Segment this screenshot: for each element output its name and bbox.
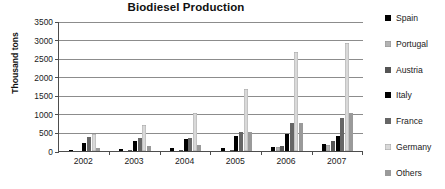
bar-spain-2003 (119, 149, 123, 151)
bar-germany-2007 (345, 43, 349, 151)
y-axis-label: 3500 (34, 17, 53, 27)
legend-label: France (396, 116, 423, 126)
bar-france-2004 (188, 138, 192, 151)
bar-italy-2003 (133, 141, 137, 151)
legend-swatch-icon (385, 92, 391, 98)
y-axis-label: 1500 (34, 91, 53, 101)
bar-france-2002 (87, 137, 91, 151)
legend-swatch-icon (385, 118, 391, 124)
legend-label: Portugal (396, 39, 428, 49)
x-axis-tick (312, 151, 313, 155)
bar-germany-2004 (193, 113, 197, 151)
bar-group (262, 21, 313, 151)
bar-spain-2006 (271, 147, 275, 151)
bar-italy-2005 (234, 136, 238, 151)
y-axis-label: 1000 (34, 110, 53, 120)
bar-others-2006 (299, 123, 303, 151)
legend-swatch-icon (385, 67, 391, 73)
x-axis-tick (362, 151, 363, 155)
bar-france-2006 (290, 123, 294, 151)
legend-swatch-icon (385, 170, 391, 176)
bar-group (160, 21, 211, 151)
bar-austria-2006 (280, 146, 284, 151)
y-axis-title: Thousand tons (10, 20, 20, 106)
bar-spain-2002 (69, 150, 73, 151)
bar-group (312, 21, 363, 151)
bar-italy-2002 (82, 143, 86, 151)
bar-others-2002 (96, 148, 100, 151)
plot-area: 0500100015002000250030003500 (58, 22, 362, 152)
x-axis-tick (160, 151, 161, 155)
y-axis-label: 500 (39, 128, 53, 138)
bar-group (59, 21, 110, 151)
bar-others-2005 (248, 132, 252, 151)
legend-label: Austria (396, 65, 423, 75)
legend-label: Spain (396, 13, 418, 23)
bar-austria-2003 (128, 150, 132, 151)
legend-swatch-icon (385, 144, 391, 150)
bar-group (211, 21, 262, 151)
chart-container: Biodiesel Production Thousand tons 05001… (0, 0, 445, 189)
y-axis-label: 2500 (34, 54, 53, 64)
bar-others-2004 (197, 145, 201, 151)
legend-swatch-icon (385, 41, 391, 47)
bar-germany-2003 (142, 125, 146, 151)
x-axis-label-2003: 2003 (109, 156, 160, 166)
bar-group (110, 21, 161, 151)
bar-others-2007 (349, 113, 353, 151)
bar-france-2003 (138, 138, 142, 151)
x-axis-label-2005: 2005 (210, 156, 261, 166)
bar-austria-2005 (230, 150, 234, 151)
x-axis-tick (109, 151, 110, 155)
bar-italy-2006 (285, 134, 289, 151)
bar-france-2007 (340, 118, 344, 151)
x-axis-tick (210, 151, 211, 155)
bar-germany-2005 (244, 89, 248, 151)
y-axis-tick (55, 152, 59, 153)
legend-label: Italy (396, 90, 412, 100)
bar-austria-2004 (179, 150, 183, 151)
x-axis-tick (261, 151, 262, 155)
y-axis-label: 3000 (34, 36, 53, 46)
chart-title: Biodiesel Production (0, 1, 372, 13)
x-axis-label-2002: 2002 (58, 156, 109, 166)
bar-italy-2004 (184, 139, 188, 151)
bar-france-2005 (239, 132, 243, 151)
bar-germany-2002 (92, 134, 96, 151)
legend-swatch-icon (385, 15, 391, 21)
y-axis-label: 0 (48, 147, 53, 157)
bar-austria-2007 (331, 141, 335, 151)
x-axis-label-2004: 2004 (159, 156, 210, 166)
y-axis-label: 2000 (34, 73, 53, 83)
bar-italy-2007 (336, 136, 340, 151)
legend-label: Germany (396, 142, 431, 152)
x-axis-label-2006: 2006 (261, 156, 312, 166)
bar-spain-2004 (170, 148, 174, 151)
bar-portugal-2006 (276, 147, 280, 151)
bar-spain-2005 (221, 148, 225, 151)
bar-spain-2007 (322, 144, 326, 151)
legend-label: Others (396, 168, 422, 178)
bar-germany-2006 (294, 52, 298, 151)
bar-others-2003 (147, 146, 151, 151)
bar-portugal-2007 (326, 145, 330, 151)
x-axis-label-2007: 2007 (311, 156, 362, 166)
